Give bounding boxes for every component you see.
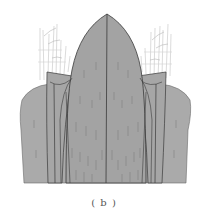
bud-shape-illustration xyxy=(0,0,208,211)
figure-diagram xyxy=(0,0,208,211)
figure-caption: ( b ) xyxy=(0,197,208,208)
left-vector-plume xyxy=(38,24,70,80)
right-vector-plume xyxy=(141,24,172,80)
